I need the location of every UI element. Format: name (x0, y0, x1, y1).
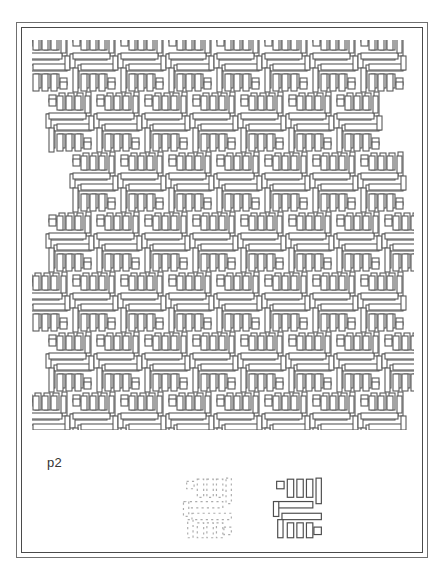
motif-solid (268, 476, 330, 542)
plate-page: p2 (0, 0, 444, 584)
wallpaper-pattern-svg (32, 40, 414, 430)
motif-solid-svg (268, 476, 330, 542)
plate-label: p2 (47, 455, 62, 470)
pattern-tiles (32, 40, 414, 430)
motif-faded (178, 476, 240, 542)
motif-row (178, 476, 338, 544)
pattern-field (32, 40, 414, 430)
motif-faded-svg (178, 476, 240, 542)
